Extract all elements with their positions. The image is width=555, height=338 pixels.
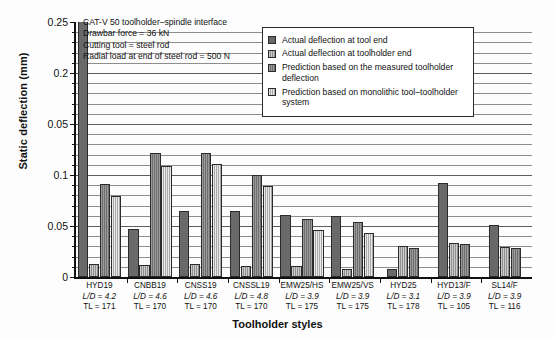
category-ld-value: L/D = 4.6 xyxy=(175,292,226,303)
category-name: SL14/F xyxy=(479,281,530,292)
category-ld-value: L/D = 4.6 xyxy=(125,292,176,303)
x-axis-category-label: CNBB19L/D = 4.6TL = 170 xyxy=(125,281,176,313)
y-axis-tick xyxy=(72,134,76,135)
annotation-line: Drawbar force = 36 kN xyxy=(81,28,230,39)
y-axis-tick xyxy=(72,114,76,115)
chart-figure: Static deflection (mm) Toolholder styles… xyxy=(0,0,555,338)
x-axis-category-label: HYD25L/D = 3.1TL = 178 xyxy=(378,281,429,313)
y-axis-tick xyxy=(72,42,76,43)
category-name: EMW25/VS xyxy=(327,281,378,292)
y-axis-tick xyxy=(72,63,76,64)
legend-item[interactable]: Prediction based on the measured toolhol… xyxy=(268,62,467,83)
y-axis-major-tick xyxy=(70,175,76,176)
legend-item[interactable]: Actual deflection at tool end xyxy=(268,35,467,45)
y-axis-tick xyxy=(72,83,76,84)
y-axis-tick xyxy=(72,32,76,33)
category-ld-value: L/D = 3.9 xyxy=(327,292,378,303)
y-axis-major-tick xyxy=(70,73,76,74)
y-axis-tick-label: 0.1 xyxy=(53,169,68,181)
category-tl-value: TL = 170 xyxy=(226,302,277,313)
category-name: HYD25 xyxy=(378,281,429,292)
y-axis-tick xyxy=(72,165,76,166)
annotation-line: Cutting tool = steel rod xyxy=(81,40,230,51)
y-axis-tick-label: 0.2 xyxy=(53,67,68,79)
y-axis-tick xyxy=(72,216,76,217)
category-ld-value: L/D = 3.9 xyxy=(277,292,328,303)
legend-swatch-icon xyxy=(268,64,276,72)
legend-label: Actual deflection at toolholder end xyxy=(282,48,411,58)
x-axis-category-labels: HYD19L/D = 4.2TL = 171CNBB19L/D = 4.6TL … xyxy=(74,281,530,325)
category-name: CNSS19 xyxy=(175,281,226,292)
y-axis-tick xyxy=(72,53,76,54)
y-axis-tick-label: 0.25 xyxy=(48,16,68,28)
x-axis-category-label: HYD13/FL/D = 3.9TL = 105 xyxy=(429,281,480,313)
y-axis-major-tick xyxy=(70,226,76,227)
y-axis-tick xyxy=(72,257,76,258)
y-axis-tick xyxy=(72,144,76,145)
legend-label: Actual deflection at tool end xyxy=(282,35,388,45)
y-axis-tick xyxy=(72,155,76,156)
y-axis-tick xyxy=(72,104,76,105)
annotation-line: CAT-V 50 toolholder–spindle interface xyxy=(81,17,230,28)
category-tl-value: TL = 175 xyxy=(327,302,378,313)
category-tl-value: TL = 175 xyxy=(277,302,328,313)
category-tl-value: TL = 105 xyxy=(429,302,480,313)
y-axis-major-tick xyxy=(70,124,76,125)
bar xyxy=(511,248,521,277)
legend-swatch-icon xyxy=(268,36,276,44)
x-axis-category-label: EMW25/VSL/D = 3.9TL = 175 xyxy=(327,281,378,313)
x-axis-category-label: CNSSL19L/D = 4.8TL = 170 xyxy=(226,281,277,313)
bar xyxy=(489,225,499,277)
category-name: CNSSL19 xyxy=(226,281,277,292)
category-tl-value: TL = 178 xyxy=(378,302,429,313)
chart-legend: Actual deflection at tool endActual defl… xyxy=(262,27,474,117)
annotation-line: Radial load at end of steel rod = 500 N xyxy=(81,51,230,62)
y-axis-tick xyxy=(72,236,76,237)
y-axis-tick xyxy=(72,267,76,268)
y-axis-tick xyxy=(72,246,76,247)
category-ld-value: L/D = 4.2 xyxy=(74,292,125,303)
category-ld-value: L/D = 4.8 xyxy=(226,292,277,303)
category-tl-value: TL = 170 xyxy=(175,302,226,313)
y-axis-major-tick xyxy=(70,22,76,23)
y-axis-major-tick xyxy=(70,277,76,278)
x-axis-category-label: SL14/FL/D = 3.9TL = 116 xyxy=(479,281,530,313)
category-ld-value: L/D = 3.9 xyxy=(479,292,530,303)
y-axis-tick xyxy=(72,93,76,94)
category-name: HYD13/F xyxy=(429,281,480,292)
y-axis-tick-label: 0 xyxy=(62,271,68,283)
annotation-textbox: CAT-V 50 toolholder–spindle interfaceDra… xyxy=(81,17,230,62)
category-tl-value: TL = 170 xyxy=(125,302,176,313)
y-axis-tick-label: 0.05 xyxy=(48,220,68,232)
category-tl-value: TL = 171 xyxy=(74,302,125,313)
bar xyxy=(500,247,510,277)
category-ld-value: L/D = 3.1 xyxy=(378,292,429,303)
legend-swatch-icon xyxy=(268,50,276,58)
y-axis-tick-label: 0.05 xyxy=(48,118,68,130)
x-axis-category-label: HYD19L/D = 4.2TL = 171 xyxy=(74,281,125,313)
y-axis-tick xyxy=(72,206,76,207)
category-name: CNBB19 xyxy=(125,281,176,292)
y-axis-tick xyxy=(72,185,76,186)
category-name: EMW25/HS xyxy=(277,281,328,292)
legend-swatch-icon xyxy=(268,88,276,96)
legend-label: Prediction based on the measured toolhol… xyxy=(282,62,467,83)
y-axis-tick xyxy=(72,195,76,196)
legend-item[interactable]: Prediction based on monolithic tool–tool… xyxy=(268,87,467,108)
x-axis-category-label: CNSS19L/D = 4.6TL = 170 xyxy=(175,281,226,313)
x-axis-category-label: EMW25/HSL/D = 3.9TL = 175 xyxy=(277,281,328,313)
y-axis-title: Static deflection (mm) xyxy=(17,26,29,196)
legend-item[interactable]: Actual deflection at toolholder end xyxy=(268,48,467,58)
legend-label: Prediction based on monolithic tool–tool… xyxy=(282,87,467,108)
category-name: HYD19 xyxy=(74,281,125,292)
category-ld-value: L/D = 3.9 xyxy=(429,292,480,303)
category-tl-value: TL = 116 xyxy=(479,302,530,313)
